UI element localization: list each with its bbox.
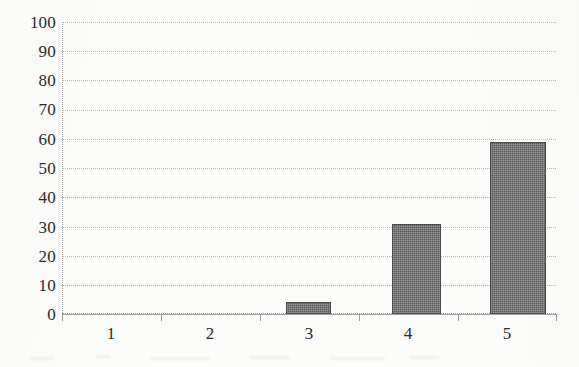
gridline-50 [62, 168, 556, 169]
scan-smudge [330, 357, 385, 360]
gridline-90 [62, 51, 556, 52]
bar-category-5 [490, 142, 546, 314]
x-tick-label-1: 1 [91, 325, 131, 342]
y-tick-label: 90 [10, 43, 56, 60]
scan-smudge [30, 357, 54, 360]
x-tick-mark [458, 314, 459, 321]
scan-smudge [95, 355, 111, 358]
x-tick-label-5: 5 [487, 325, 527, 342]
y-axis-tick-labels: 100 90 80 70 60 50 40 30 20 10 0 [0, 0, 56, 367]
y-tick-label: 0 [10, 306, 56, 323]
bar-category-3 [286, 302, 331, 314]
x-tick-mark [260, 314, 261, 321]
bar-chart-figure: 100 90 80 70 60 50 40 30 20 10 0 [0, 0, 579, 367]
y-tick-label: 50 [10, 160, 56, 177]
y-tick-label: 10 [10, 277, 56, 294]
x-tick-mark [62, 314, 63, 321]
y-tick-label: 70 [10, 101, 56, 118]
y-tick-label: 20 [10, 248, 56, 265]
scan-smudge [410, 356, 440, 359]
bar-category-4 [392, 224, 441, 314]
y-tick-label: 30 [10, 219, 56, 236]
scan-smudge [250, 356, 290, 359]
x-tick-mark [161, 314, 162, 321]
x-tick-label-4: 4 [388, 325, 428, 342]
x-tick-label-3: 3 [289, 325, 329, 342]
gridline-70 [62, 110, 556, 111]
x-tick-label-2: 2 [190, 325, 230, 342]
gridline-20 [62, 256, 556, 257]
x-axis-line [62, 314, 556, 315]
scan-smudge [150, 357, 210, 360]
y-tick-label: 80 [10, 72, 56, 89]
gridline-60 [62, 139, 556, 140]
gridline-40 [62, 197, 556, 198]
gridline-10 [62, 285, 556, 286]
y-tick-label: 60 [10, 131, 56, 148]
y-tick-label: 100 [10, 14, 56, 31]
gridline-80 [62, 80, 556, 81]
gridline-30 [62, 227, 556, 228]
gridline-100 [62, 22, 556, 23]
y-tick-label: 40 [10, 189, 56, 206]
x-tick-mark [359, 314, 360, 321]
plot-area [62, 22, 556, 314]
x-tick-mark [556, 314, 557, 321]
